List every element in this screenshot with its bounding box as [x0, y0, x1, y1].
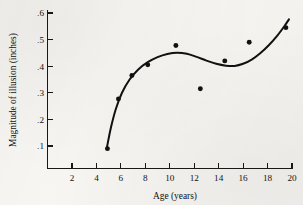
- data-points: [105, 25, 288, 151]
- x-tick-label: 8: [143, 173, 148, 183]
- x-tick-label: 18: [263, 173, 273, 183]
- tick-marks: [48, 13, 293, 169]
- y-tick-label: .2: [37, 115, 44, 125]
- data-point: [222, 58, 227, 63]
- axes: [48, 10, 294, 169]
- x-axis-title: Age (years): [153, 191, 197, 202]
- data-point: [145, 62, 150, 67]
- illusion-magnitude-scatter-figure: 2468101214161820 .1.2.3.4.5.6 Age (years…: [0, 0, 303, 205]
- data-point: [116, 96, 121, 101]
- x-tick-label: 12: [190, 173, 200, 183]
- data-point: [105, 146, 110, 151]
- x-tick-label: 20: [287, 173, 297, 183]
- fitted-trend-curve: [107, 19, 289, 147]
- data-point: [129, 73, 134, 78]
- y-tick-labels: .1.2.3.4.5.6: [37, 8, 44, 151]
- y-tick-label: .6: [37, 8, 44, 18]
- y-tick-label: .3: [37, 88, 44, 98]
- x-tick-label: 10: [165, 173, 175, 183]
- x-tick-label: 6: [119, 173, 124, 183]
- plot-area: 2468101214161820 .1.2.3.4.5.6 Age (years…: [0, 0, 303, 205]
- x-tick-label: 4: [94, 173, 99, 183]
- data-point: [198, 86, 203, 91]
- data-point: [283, 25, 288, 30]
- x-tick-label: 16: [239, 173, 249, 183]
- y-tick-label: .5: [37, 35, 44, 45]
- y-tick-label: .4: [37, 62, 44, 72]
- x-tick-label: 2: [70, 173, 75, 183]
- y-tick-label: .1: [37, 141, 44, 151]
- data-point: [247, 40, 252, 45]
- data-point: [173, 43, 178, 48]
- x-tick-labels: 2468101214161820: [70, 173, 297, 183]
- y-axis-title: Magnitude of illusion (inches): [8, 33, 19, 147]
- x-tick-label: 14: [214, 173, 224, 183]
